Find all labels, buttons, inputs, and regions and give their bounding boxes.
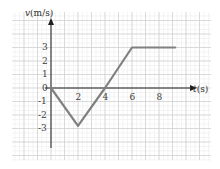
velocity-time-graph-figure: 3210-1-2-32468 v(m/s) t(s): [0, 0, 220, 169]
y-axis-title: v(m/s): [25, 9, 53, 18]
series-line-velocity: [51, 48, 175, 126]
y-tick-label: -1: [38, 97, 47, 106]
x-tick-label: 4: [103, 93, 109, 102]
series-group: [51, 48, 175, 126]
y-tick-label: 0: [42, 84, 48, 93]
x-tick-label: 6: [130, 93, 136, 102]
y-tick-label: 1: [42, 70, 48, 79]
axes-group: [45, 18, 197, 148]
y-tick-label: -3: [38, 124, 47, 133]
x-tick-label: 8: [157, 93, 163, 102]
x-tick-label: 2: [76, 93, 82, 102]
x-axis-title: t(s): [193, 85, 208, 94]
y-tick-label: 3: [42, 43, 48, 52]
y-tick-label: 2: [42, 57, 48, 66]
x-axis-unit: (s): [197, 84, 209, 94]
plot-layer: [0, 0, 220, 169]
y-tick-label: -2: [38, 111, 47, 120]
y-axis-unit: (m/s): [30, 8, 53, 18]
